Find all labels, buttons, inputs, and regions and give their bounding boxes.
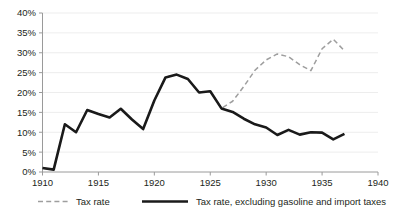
y-axis-tick-label: 10%: [17, 127, 37, 138]
legend-label-tax-rate: Tax rate: [76, 196, 110, 207]
x-axis-tick-label: 1930: [256, 177, 277, 188]
y-axis-tick-label: 40%: [17, 7, 37, 18]
x-axis-tick-label: 1915: [88, 177, 109, 188]
line-chart: 0%5%10%15%20%25%30%35%40% 19101915192019…: [0, 0, 406, 215]
x-axis-tick-label: 1920: [144, 177, 165, 188]
x-axis-tick-label: 1935: [312, 177, 333, 188]
y-axis-tick-label: 25%: [17, 67, 37, 78]
x-axis-tick-label: 1910: [32, 177, 53, 188]
x-axis-tick-label: 1925: [200, 177, 221, 188]
x-axis-tick-label: 1940: [367, 177, 388, 188]
y-axis-tick-label: 35%: [17, 27, 37, 38]
chart-legend: Tax rateTax rate, excluding gasoline and…: [38, 196, 386, 207]
chart-canvas: 0%5%10%15%20%25%30%35%40% 19101915192019…: [0, 0, 406, 215]
y-axis-tick-label: 30%: [17, 47, 37, 58]
y-axis-tick-label: 15%: [17, 107, 37, 118]
y-axis-tick-label: 5%: [22, 147, 36, 158]
legend-label-tax-rate-excluding: Tax rate, excluding gasoline and import …: [196, 196, 386, 207]
y-axis-tick-label: 20%: [17, 87, 37, 98]
